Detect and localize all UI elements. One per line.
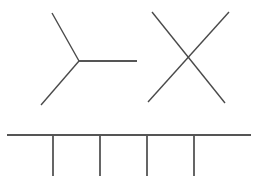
canvas-background	[0, 0, 258, 188]
figure-svg	[0, 0, 258, 188]
drawing-canvas	[0, 0, 258, 188]
